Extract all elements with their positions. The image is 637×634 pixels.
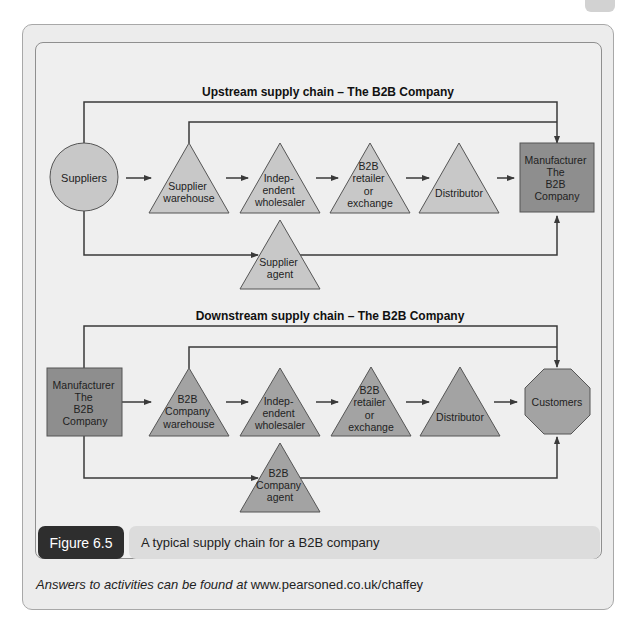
node-supplier-warehouse: Supplier warehouse: [149, 143, 229, 213]
upstream-title: Upstream supply chain – The B2B Company: [202, 85, 454, 99]
svg-text:Supplier warehouse: Supplier warehouse: [162, 180, 215, 204]
svg-text:Distributor: Distributor: [436, 411, 484, 423]
activity-answers-note: Answers to activities can be found at ww…: [36, 577, 423, 592]
node-independent-wholesaler: Indep- endent wholesaler: [240, 143, 320, 213]
node-independent-wholesaler-down: Indep- endent wholesaler: [240, 368, 320, 436]
footer-prefix: Answers to activities can be found at: [36, 577, 247, 592]
svg-text:Distributor: Distributor: [435, 187, 483, 199]
downstream-title: Downstream supply chain – The B2B Compan…: [196, 309, 465, 323]
node-manufacturer-downstream: Manufacturer The B2B Company: [47, 368, 122, 436]
node-suppliers: Suppliers: [50, 143, 118, 211]
node-manufacturer-upstream: Manufacturer The B2B Company: [520, 143, 594, 212]
node-b2b-retailer-exchange: B2B retailer or exchange: [330, 143, 410, 213]
footer-url-link[interactable]: www.pearsoned.co.uk/chaffey: [251, 577, 423, 592]
figure-caption: A typical supply chain for a B2B company: [129, 526, 600, 559]
node-distributor-down: Distributor: [420, 367, 500, 436]
upstream-connectors: [84, 102, 557, 255]
node-b2b-company-warehouse: B2B Company warehouse: [149, 368, 229, 436]
node-b2b-retailer-exchange-down: B2B retailer or exchange: [331, 367, 411, 436]
downstream-connectors: [84, 326, 557, 478]
svg-text:Suppliers: Suppliers: [61, 172, 107, 184]
figure-number-label: Figure 6.5: [38, 526, 124, 559]
svg-text:Customers: Customers: [532, 396, 583, 408]
node-customers: Customers: [525, 369, 590, 434]
node-distributor: Distributor: [419, 143, 499, 213]
